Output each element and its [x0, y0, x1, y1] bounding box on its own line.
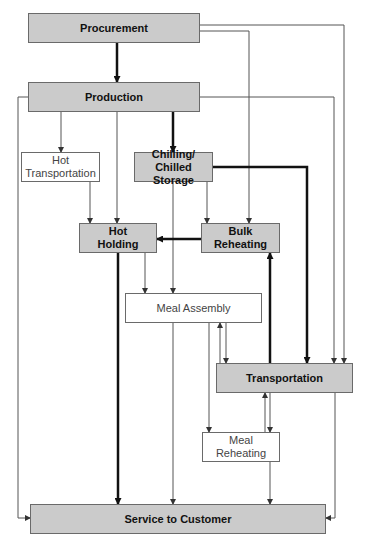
node-label: Service to Customer — [125, 513, 232, 526]
node-label: Chilling/ Chilled Storage — [135, 148, 212, 187]
node-procurement: Procurement — [28, 13, 200, 43]
food-service-flowchart: Procurement Production Hot Transportatio… — [0, 0, 367, 546]
node-label: Meal Reheating — [216, 434, 266, 460]
node-transportation: Transportation — [216, 363, 353, 393]
node-meal-reheating: Meal Reheating — [202, 432, 280, 462]
node-label: Hot Holding — [98, 225, 139, 251]
node-label: Procurement — [80, 22, 148, 35]
node-label: Hot Transportation — [25, 154, 96, 180]
node-chilling: Chilling/ Chilled Storage — [134, 152, 213, 182]
node-label: Meal Assembly — [157, 302, 231, 315]
node-bulk-reheating: Bulk Reheating — [201, 223, 280, 253]
node-hot-holding: Hot Holding — [79, 223, 157, 253]
node-meal-assembly: Meal Assembly — [125, 293, 262, 323]
node-label: Bulk Reheating — [214, 225, 267, 251]
node-label: Transportation — [246, 372, 323, 385]
node-production: Production — [28, 82, 200, 112]
node-label: Production — [85, 91, 143, 104]
node-hot-transportation: Hot Transportation — [21, 152, 100, 182]
node-service-to-customer: Service to Customer — [30, 504, 326, 534]
